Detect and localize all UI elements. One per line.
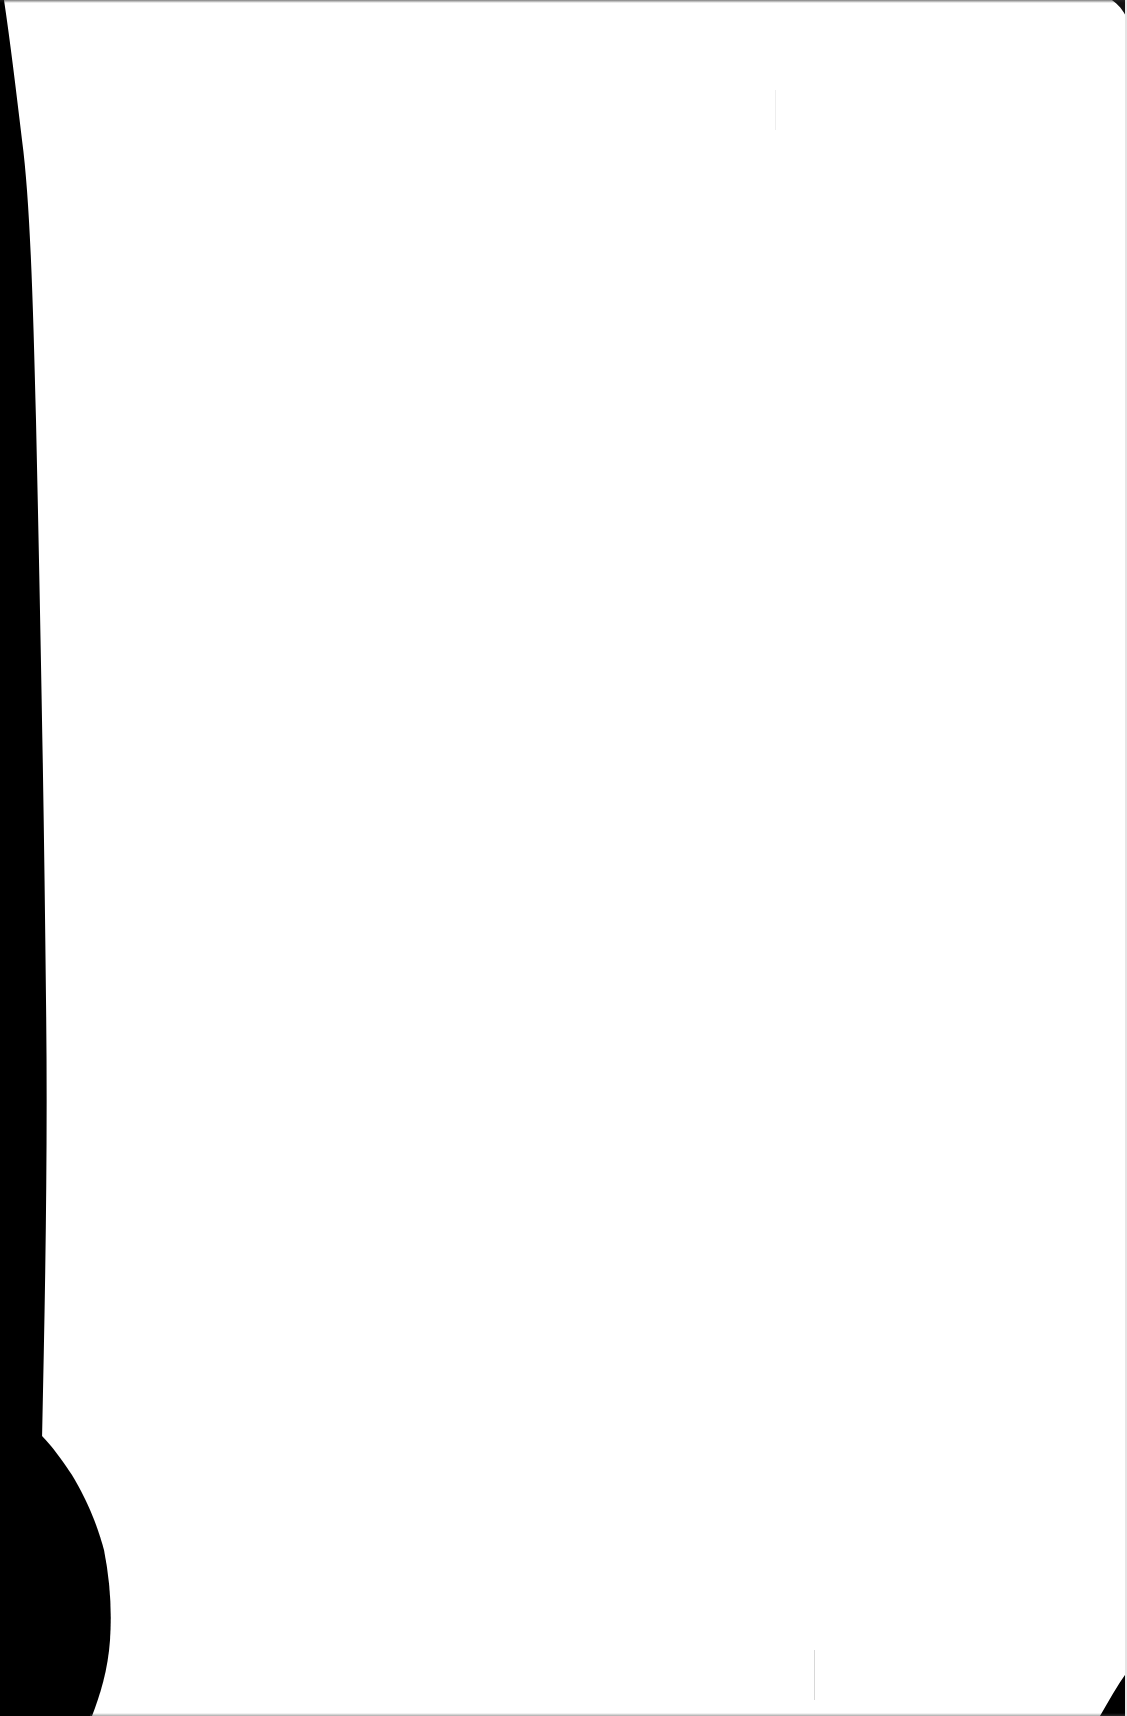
- blank-scanned-page: [0, 0, 1127, 1716]
- bottom-right-corner-shadow: [1100, 1672, 1127, 1716]
- scan-shadow-overlay: [0, 0, 1127, 1716]
- top-scan-edge: [0, 0, 1127, 3]
- bottom-left-shadow-blob: [0, 1436, 111, 1716]
- scan-artifact-line: [814, 1650, 815, 1700]
- left-binding-shadow: [0, 0, 47, 1440]
- scan-artifact-line: [775, 90, 776, 130]
